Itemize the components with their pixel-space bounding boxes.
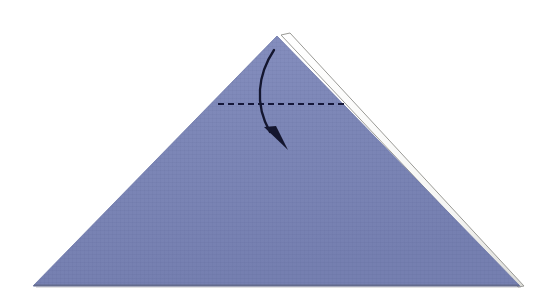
folded-paper-triangle-group — [0, 0, 551, 308]
origami-diagram: Origami fold step diagram Blue isosceles… — [0, 0, 551, 308]
fold-diagram-svg: Origami fold step diagram Blue isosceles… — [0, 0, 551, 308]
paper-texture — [0, 0, 551, 308]
